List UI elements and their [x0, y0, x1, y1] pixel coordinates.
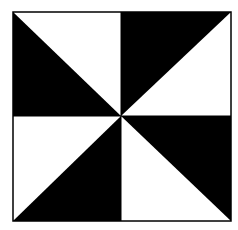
- pinwheel-diagram: [0, 0, 238, 230]
